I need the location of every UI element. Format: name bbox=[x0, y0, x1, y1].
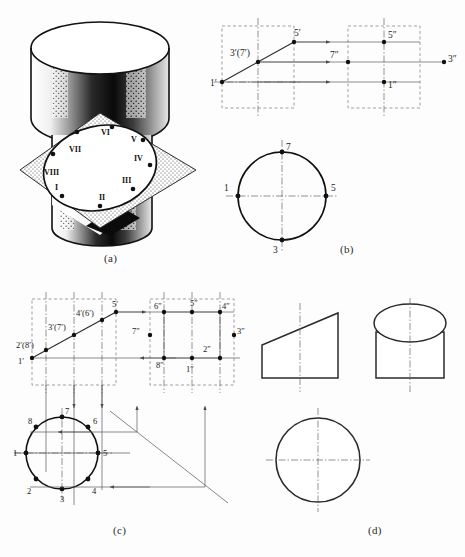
panel-b-top-point-1 bbox=[236, 194, 241, 199]
panel-b-top-point-3 bbox=[280, 238, 285, 243]
panel-c-label-5pp: 5″ bbox=[190, 298, 198, 308]
panel-c-mitre-line bbox=[110, 411, 228, 503]
roman-label-VIII: VIII bbox=[44, 168, 59, 177]
panel-b-top-label-7: 7 bbox=[286, 142, 291, 152]
panel-b-label-1pp: 1″ bbox=[388, 80, 397, 90]
panel-c-label-1pp: 1″ bbox=[186, 364, 194, 374]
panel-c-point-5pp bbox=[190, 310, 194, 314]
panel-b-point-5pp bbox=[382, 40, 386, 44]
roman-label-VII: VII bbox=[69, 145, 81, 154]
panel-c-top-label-2: 2 bbox=[27, 486, 31, 496]
panel-b-top-label-5: 5 bbox=[331, 183, 336, 193]
panel-d-final-views bbox=[262, 298, 446, 512]
panel-b-point-1pp bbox=[382, 80, 386, 84]
panel-c-top-label-5: 5 bbox=[103, 448, 107, 458]
panel-d-top-view bbox=[266, 408, 370, 512]
panel-b-top-label-1: 1 bbox=[224, 183, 229, 193]
roman-label-I: I bbox=[55, 183, 58, 192]
section-point-VII bbox=[75, 130, 80, 135]
panel-c-top-point-1 bbox=[24, 451, 29, 456]
panel-c-point-6pp bbox=[162, 310, 166, 314]
panel-c-label-1p: 1′ bbox=[18, 356, 24, 366]
section-point-IV-b bbox=[141, 138, 146, 143]
panel-c-point-5p bbox=[114, 310, 118, 314]
panel-c-top-view: 8 7 6 1 5 2 3 4 bbox=[13, 406, 130, 504]
caption-c: (c) bbox=[113, 524, 126, 536]
panel-b-label-5pp: 5″ bbox=[388, 30, 397, 40]
panel-c-top-label-4: 4 bbox=[92, 486, 97, 496]
panel-c-point-1pp bbox=[190, 356, 194, 360]
section-point-IV bbox=[148, 163, 153, 168]
upper-cylinder-top-ellipse bbox=[31, 22, 169, 74]
panel-c-top-label-7: 7 bbox=[65, 406, 69, 416]
panel-c-top-point-5 bbox=[96, 451, 101, 456]
section-point-VIII bbox=[51, 152, 56, 157]
panel-c-top-point-7 bbox=[60, 415, 65, 420]
panel-c-point-3p7p bbox=[72, 333, 76, 337]
panel-c-label-3pp: 3″ bbox=[237, 326, 245, 336]
panel-c-point-2p8p bbox=[44, 348, 48, 352]
panel-c-label-4p6p: 4′(6′) bbox=[76, 308, 94, 318]
caption-d: (d) bbox=[368, 524, 382, 536]
panel-b-point-3pp bbox=[442, 60, 446, 64]
panel-a-pictorial: I II III IV V VI VII VIII bbox=[20, 22, 196, 246]
panel-c-top-point-6 bbox=[86, 425, 91, 430]
panel-d-side-view bbox=[374, 298, 446, 392]
panel-c-label-7pp: 7″ bbox=[132, 326, 140, 336]
panel-d-front-view bbox=[262, 303, 338, 392]
section-point-III bbox=[131, 187, 136, 192]
panel-c-point-1p bbox=[30, 356, 34, 360]
panel-c-label-5p: 5′ bbox=[112, 299, 118, 309]
panel-c-top-label-1: 1 bbox=[13, 448, 17, 458]
section-point-I bbox=[60, 194, 65, 199]
panel-c-top-label-3: 3 bbox=[60, 494, 64, 504]
panel-c-top-point-4 bbox=[86, 477, 91, 482]
panel-c-label-4pp: 4″ bbox=[222, 301, 230, 311]
panel-c-point-2pp bbox=[218, 356, 222, 360]
roman-label-V: V bbox=[131, 135, 137, 144]
panel-b-point-3p7p bbox=[256, 60, 260, 64]
panel-c-point-7pp bbox=[148, 333, 152, 337]
panel-b-point-1p bbox=[220, 80, 224, 84]
panel-c-top-point-8 bbox=[34, 425, 39, 430]
panel-c-top-label-8: 8 bbox=[28, 416, 32, 426]
panel-b-label-3pp: 3″ bbox=[448, 54, 457, 64]
panel-c-point-3pp bbox=[232, 333, 236, 337]
panel-b-top-view: 7 5 3 1 bbox=[224, 140, 338, 255]
panel-b-top-point-7 bbox=[280, 150, 285, 155]
panel-c-label-8pp: 8″ bbox=[156, 360, 164, 370]
section-point-II bbox=[98, 204, 103, 209]
panel-b-projection: 1′ 3′(7′) 5′ 5″ 7″ 3″ 1″ 7 5 3 1 bbox=[210, 18, 457, 255]
panel-c-label-2pp: 2″ bbox=[203, 344, 211, 354]
roman-label-III: III bbox=[122, 176, 131, 185]
panel-c-label-6pp: 6″ bbox=[154, 301, 162, 311]
panel-c-top-point-2 bbox=[34, 477, 39, 482]
panel-c-point-4p6p bbox=[100, 318, 104, 322]
caption-a: (a) bbox=[104, 252, 117, 264]
roman-label-II: II bbox=[99, 193, 105, 202]
panel-b-point-7pp bbox=[346, 60, 350, 64]
panel-c-label-2p8p: 2′(8′) bbox=[16, 340, 34, 350]
panel-b-top-point-5 bbox=[324, 194, 329, 199]
panel-b-label-3p7p: 3′(7′) bbox=[230, 48, 250, 59]
panel-b-label-1p: 1′ bbox=[210, 78, 217, 88]
panel-b-label-7pp: 7″ bbox=[330, 50, 339, 60]
section-point-VI bbox=[110, 125, 115, 130]
plate-canvas: I II III IV V VI VII VIII bbox=[0, 0, 465, 557]
panel-b-point-5p bbox=[292, 40, 296, 44]
drawing-plate: I II III IV V VI VII VIII bbox=[0, 0, 465, 557]
roman-label-VI: VI bbox=[101, 128, 110, 137]
roman-label-IV: IV bbox=[134, 154, 143, 163]
panel-c-top-label-6: 6 bbox=[93, 416, 97, 426]
caption-b: (b) bbox=[340, 243, 354, 255]
panel-b-label-5p: 5′ bbox=[294, 28, 301, 38]
panel-c-projection: 1′ 2′(8′) 3′(7′) 4′(6′) 5′ 6″ 5″ 4″ 7″ 3… bbox=[13, 292, 245, 505]
panel-c-label-3p7p: 3′(7′) bbox=[48, 322, 66, 332]
panel-b-top-label-3: 3 bbox=[273, 245, 278, 255]
